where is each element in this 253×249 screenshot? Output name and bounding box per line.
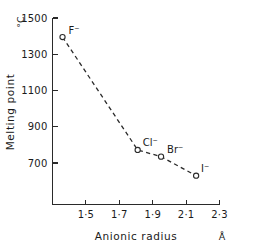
melting-point-vs-anionic-radius-plot: 150013001100900700 1·51·71·92·12·3 F⁻Cl⁻… — [0, 0, 253, 249]
data-point-label: F⁻ — [69, 25, 80, 36]
y-tick-label: 900 — [28, 121, 48, 132]
data-point-markers — [60, 34, 199, 178]
data-point-label: Br⁻ — [167, 144, 183, 155]
x-tick-label: 2·1 — [178, 209, 195, 220]
data-point-label: I⁻ — [201, 163, 209, 174]
y-axis-tick-labels: 150013001100900700 — [21, 13, 47, 169]
data-point-marker — [158, 154, 163, 159]
data-series — [63, 37, 197, 176]
x-axis-tick-labels: 1·51·71·92·12·3 — [78, 209, 228, 220]
y-axis-ticks — [53, 18, 58, 163]
y-tick-label: 1300 — [21, 49, 47, 60]
y-tick-label: 1100 — [21, 85, 47, 96]
x-tick-label: 1·9 — [144, 209, 161, 220]
data-point-label: Cl⁻ — [143, 137, 158, 148]
data-point-marker — [60, 34, 65, 39]
x-axis-ticks — [86, 200, 220, 205]
x-tick-label: 2·3 — [211, 209, 228, 220]
x-axis-title: Anionic radius — [95, 230, 178, 242]
series-dashed-line — [63, 37, 197, 176]
x-tick-label: 1·7 — [111, 209, 128, 220]
data-point-marker — [194, 173, 199, 178]
data-point-marker — [135, 147, 140, 152]
x-tick-label: 1·5 — [78, 209, 95, 220]
y-axis-title: Melting point — [4, 74, 16, 151]
chart-figure: 150013001100900700 1·51·71·92·12·3 F⁻Cl⁻… — [0, 0, 253, 249]
x-axis-unit-label: Å — [219, 231, 226, 242]
y-tick-label: 700 — [28, 158, 48, 169]
y-axis-unit-label: °C — [15, 16, 26, 28]
